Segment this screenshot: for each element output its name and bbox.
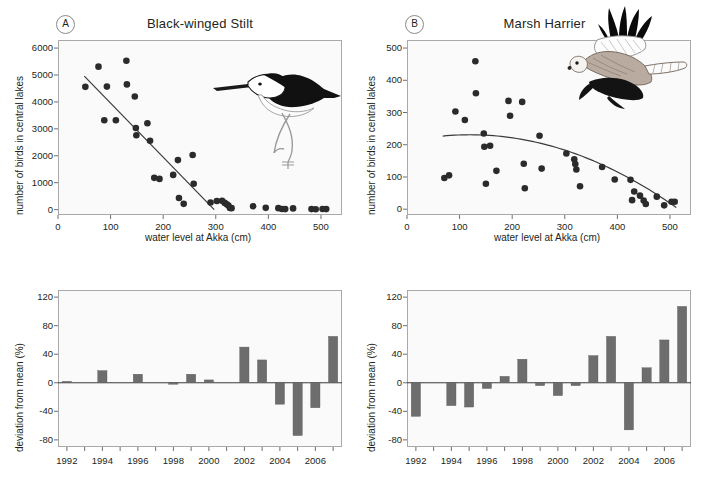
xtick-100: 100: [93, 221, 129, 232]
xtick-400: 400: [599, 221, 635, 232]
xtick-400: 400: [250, 221, 286, 232]
xtick-200: 200: [494, 221, 530, 232]
ytick-100: 100: [369, 171, 402, 182]
bar-2006: [311, 383, 320, 408]
ytick-80: 80: [20, 320, 53, 331]
bar-1996: [133, 374, 142, 383]
panel-c-deviation-stilt: deviation from mean (%) -80-400408012019…: [0, 252, 352, 490]
bar-1996: [482, 383, 491, 389]
bar-1992: [411, 383, 420, 417]
ytick-300: 300: [369, 107, 402, 118]
ytick--80: -80: [369, 434, 402, 445]
bar-1992: [62, 381, 71, 382]
ytick-1000: 1000: [20, 177, 53, 188]
xtick-0: 0: [40, 221, 76, 232]
bar-1999: [187, 374, 196, 383]
xtick-2002: 2002: [224, 455, 264, 466]
bar-2004: [275, 383, 284, 404]
bar-2000: [204, 380, 213, 383]
bar-2002: [589, 356, 598, 383]
ytick--40: -40: [20, 405, 53, 416]
bar-2003: [258, 360, 267, 383]
bar-1994: [447, 383, 456, 406]
ytick-200: 200: [369, 139, 402, 150]
xtick-1994: 1994: [431, 455, 471, 466]
xtick-100: 100: [442, 221, 478, 232]
ytick-4000: 4000: [20, 96, 53, 107]
xtick-2006: 2006: [644, 455, 684, 466]
ytick-120: 120: [20, 291, 53, 302]
ytick-500: 500: [369, 42, 402, 53]
xtick-1996: 1996: [118, 455, 158, 466]
xtick-2004: 2004: [260, 455, 300, 466]
xtick-500: 500: [652, 221, 688, 232]
ytick-0: 0: [20, 204, 53, 215]
xtick-1992: 1992: [47, 455, 87, 466]
ytick-0: 0: [369, 377, 402, 388]
bar-1995: [465, 383, 474, 407]
xtick-2000: 2000: [538, 455, 578, 466]
bar-2004: [624, 383, 633, 430]
ytick-0: 0: [369, 203, 402, 214]
ytick-6000: 6000: [20, 42, 53, 53]
panel-d-deviation-harrier: deviation from mean (%) -80-400408012019…: [352, 252, 705, 490]
xtick-1994: 1994: [82, 455, 122, 466]
ytick--40: -40: [369, 405, 402, 416]
ytick-400: 400: [369, 74, 402, 85]
bar-2000: [553, 383, 562, 396]
xtick-500: 500: [303, 221, 339, 232]
bar-2006: [660, 340, 669, 383]
bar-2001: [571, 383, 580, 386]
xtick-1996: 1996: [467, 455, 507, 466]
xtick-2006: 2006: [295, 455, 335, 466]
bar-1997: [500, 376, 509, 382]
xtick-2004: 2004: [609, 455, 649, 466]
bar-2005: [293, 383, 302, 436]
bar-1994: [98, 371, 107, 383]
ytick-40: 40: [369, 348, 402, 359]
ytick-0: 0: [20, 377, 53, 388]
panel-b-marsh-harrier: B Marsh Harrier number of birds in centr…: [352, 0, 705, 252]
xtick-2000: 2000: [189, 455, 229, 466]
xtick-300: 300: [547, 221, 583, 232]
ytick-3000: 3000: [20, 123, 53, 134]
xtick-0: 0: [389, 221, 425, 232]
xtick-1992: 1992: [396, 455, 436, 466]
ytick-120: 120: [369, 291, 402, 302]
bar-1998: [169, 383, 178, 384]
bar-2002: [240, 347, 249, 383]
ytick--80: -80: [20, 434, 53, 445]
marsh-harrier-illustration: [567, 4, 692, 136]
ytick-80: 80: [369, 320, 402, 331]
ytick-40: 40: [20, 348, 53, 359]
ytick-2000: 2000: [20, 150, 53, 161]
ytick-5000: 5000: [20, 69, 53, 80]
xtick-1998: 1998: [502, 455, 542, 466]
xtick-200: 200: [145, 221, 181, 232]
xtick-2002: 2002: [573, 455, 613, 466]
bar-2005: [642, 368, 651, 383]
panel-a-black-winged-stilt: A Black-winged Stilt number of birds in …: [0, 0, 352, 252]
bar-2007: [678, 306, 687, 382]
xtick-1998: 1998: [153, 455, 193, 466]
bar-1999: [536, 383, 545, 386]
bar-1998: [518, 359, 527, 383]
black-winged-stilt-illustration: [208, 58, 343, 173]
bar-2003: [607, 336, 616, 382]
xtick-300: 300: [198, 221, 234, 232]
bar-2007: [329, 336, 338, 382]
